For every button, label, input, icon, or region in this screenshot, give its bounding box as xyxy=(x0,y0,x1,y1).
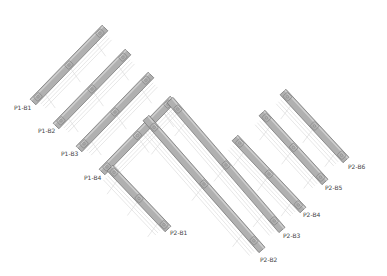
guide-line xyxy=(87,83,153,151)
beam-label: P2-B4 xyxy=(303,211,321,218)
beam-label: P1-B3 xyxy=(61,150,79,157)
beam-body xyxy=(30,25,108,105)
beam-label: P1-B4 xyxy=(84,174,102,181)
beam-label: P2-B6 xyxy=(348,163,366,170)
guide-line xyxy=(108,176,160,231)
beam-label: P1-B1 xyxy=(14,104,32,111)
guide-line xyxy=(167,108,274,232)
beam-label: P2-B1 xyxy=(170,229,188,236)
beams xyxy=(30,25,349,252)
beam-p2-b1[interactable] xyxy=(107,165,171,232)
beam-label: P2-B3 xyxy=(283,232,301,239)
beam-layout-diagram: P1-B1P1-B2P1-B3P1-B4P2-B1P2-B2P2-B3P2-B4… xyxy=(0,0,387,276)
guide-line xyxy=(281,100,339,162)
beam-p2-b6[interactable] xyxy=(280,89,349,162)
beam-label: P1-B2 xyxy=(38,127,56,134)
beam-label: P2-B2 xyxy=(260,256,278,263)
beam-p1-b2[interactable] xyxy=(53,49,131,129)
guide-line xyxy=(163,112,270,236)
beam-body xyxy=(280,89,349,162)
beam-p1-b1[interactable] xyxy=(30,25,108,105)
beam-highlight xyxy=(264,111,327,180)
beam-body xyxy=(53,49,131,129)
beam-body xyxy=(107,165,171,232)
beam-highlight xyxy=(112,166,170,227)
beam-label: P2-B5 xyxy=(325,184,343,191)
